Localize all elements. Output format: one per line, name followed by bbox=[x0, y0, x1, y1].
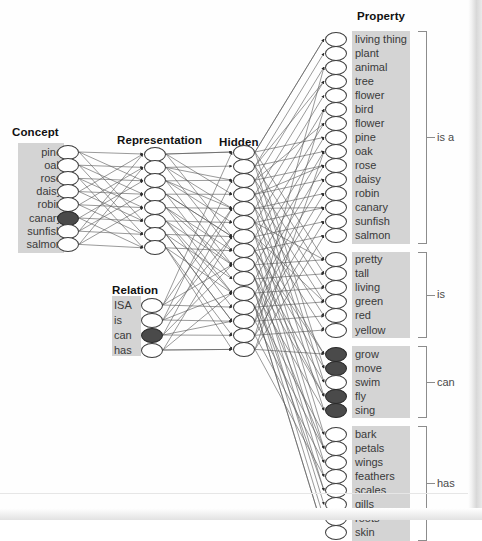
property-label-living thing: living thing bbox=[355, 33, 411, 46]
property-label-bark: bark bbox=[355, 428, 411, 441]
hidden-node-10 bbox=[233, 271, 255, 286]
property-node-is-a-canary bbox=[325, 200, 347, 215]
property-node-has-skin bbox=[325, 525, 347, 540]
relation-node-ISA bbox=[141, 298, 163, 313]
property-label-oak: oak bbox=[355, 145, 411, 158]
property-label-salmon: salmon bbox=[355, 229, 411, 242]
property-node-is-a-flower bbox=[325, 116, 347, 131]
property-node-is-a-daisy bbox=[325, 172, 347, 187]
property-label-plant: plant bbox=[355, 47, 411, 60]
property-label-petals: petals bbox=[355, 442, 411, 455]
property-group-label-can: can bbox=[437, 376, 455, 388]
property-node-has-scales bbox=[325, 483, 347, 498]
property-node-has-bark bbox=[325, 427, 347, 442]
property-label-skin: skin bbox=[355, 526, 411, 539]
property-node-can-grow bbox=[325, 347, 347, 362]
property-label-red: red bbox=[355, 309, 411, 322]
property-node-is-yellow bbox=[325, 323, 347, 338]
hidden-node-13 bbox=[233, 314, 255, 329]
property-node-is-a-tree bbox=[325, 74, 347, 89]
property-node-can-sing bbox=[325, 403, 347, 418]
concept-label-robin: robin bbox=[18, 198, 62, 211]
hidden-node-3 bbox=[233, 173, 255, 188]
representation-node-8 bbox=[144, 240, 166, 255]
property-group-bracket-is-a bbox=[418, 31, 427, 244]
layer-title-representation: Representation bbox=[117, 134, 202, 146]
property-node-is-living bbox=[325, 280, 347, 295]
property-label-grow: grow bbox=[355, 348, 411, 361]
property-group-stem-is-a bbox=[427, 137, 435, 138]
hidden-node-6 bbox=[233, 215, 255, 230]
layer-title-property: Property bbox=[357, 10, 405, 22]
hidden-node-11 bbox=[233, 286, 255, 301]
property-label-pretty: pretty bbox=[355, 253, 411, 266]
property-node-is-a-pine bbox=[325, 130, 347, 145]
property-group-bracket-has bbox=[418, 426, 427, 540]
concept-label-salmon: salmon bbox=[18, 238, 62, 251]
property-group-bracket-is bbox=[418, 252, 427, 338]
property-label-flower: flower bbox=[355, 89, 411, 102]
property-label-sing: sing bbox=[355, 404, 411, 417]
property-node-is-pretty bbox=[325, 252, 347, 267]
property-label-sunfish: sunfish bbox=[355, 215, 411, 228]
property-node-can-swim bbox=[325, 375, 347, 390]
relation-label-is: is bbox=[114, 314, 142, 327]
concept-label-oak: oak bbox=[18, 159, 62, 172]
layer-title-concept: Concept bbox=[12, 126, 59, 138]
property-node-is-a-animal bbox=[325, 60, 347, 75]
property-label-move: move bbox=[355, 362, 411, 375]
property-node-is-tall bbox=[325, 266, 347, 281]
hidden-node-14 bbox=[233, 328, 255, 343]
concept-label-sunfish: sunfish bbox=[18, 225, 62, 238]
property-node-is-a-sunfish bbox=[325, 214, 347, 229]
property-label-green: green bbox=[355, 295, 411, 308]
hidden-node-7 bbox=[233, 229, 255, 244]
property-node-is-a-salmon bbox=[325, 228, 347, 243]
property-node-has-wings bbox=[325, 455, 347, 470]
hidden-node-15 bbox=[233, 342, 255, 357]
concept-label-daisy: daisy bbox=[18, 185, 62, 198]
property-label-yellow: yellow bbox=[355, 324, 411, 337]
hidden-node-4 bbox=[233, 187, 255, 202]
hidden-node-9 bbox=[233, 257, 255, 272]
property-node-is-red bbox=[325, 308, 347, 323]
property-label-tree: tree bbox=[355, 75, 411, 88]
property-label-pine: pine bbox=[355, 131, 411, 144]
concept-node-salmon bbox=[57, 237, 79, 252]
property-group-bracket-can bbox=[418, 346, 427, 418]
property-group-label-is: is bbox=[437, 288, 445, 300]
property-label-scales: scales bbox=[355, 484, 411, 497]
property-label-robin: robin bbox=[355, 187, 411, 200]
property-node-can-move bbox=[325, 361, 347, 376]
page-edge-bottom bbox=[0, 508, 482, 520]
property-label-living: living bbox=[355, 281, 411, 294]
property-node-has-feathers bbox=[325, 469, 347, 484]
relation-label-can: can bbox=[114, 329, 142, 342]
property-label-flower: flower bbox=[355, 117, 411, 130]
property-label-bird: bird bbox=[355, 103, 411, 116]
property-node-is-a-flower bbox=[325, 88, 347, 103]
property-node-is-a-living thing bbox=[325, 32, 347, 47]
property-group-stem-can bbox=[427, 382, 435, 383]
page-fold-line bbox=[0, 493, 468, 494]
property-label-canary: canary bbox=[355, 201, 411, 214]
property-label-animal: animal bbox=[355, 61, 411, 74]
concept-label-rose: rose bbox=[18, 172, 62, 185]
hidden-node-5 bbox=[233, 201, 255, 216]
property-label-fly: fly bbox=[355, 390, 411, 403]
property-node-is-green bbox=[325, 294, 347, 309]
property-node-is-a-rose bbox=[325, 158, 347, 173]
property-group-label-has: has bbox=[437, 477, 455, 489]
relation-label-has: has bbox=[114, 344, 142, 357]
property-node-is-a-bird bbox=[325, 102, 347, 117]
hidden-node-8 bbox=[233, 243, 255, 258]
property-group-stem-is bbox=[427, 295, 435, 296]
concept-label-canary: canary bbox=[18, 212, 62, 225]
property-label-feathers: feathers bbox=[355, 470, 411, 483]
property-node-is-a-robin bbox=[325, 186, 347, 201]
property-label-swim: swim bbox=[355, 376, 411, 389]
relation-label-ISA: ISA bbox=[114, 299, 142, 312]
hidden-node-2 bbox=[233, 159, 255, 174]
layer-title-relation: Relation bbox=[112, 284, 158, 296]
